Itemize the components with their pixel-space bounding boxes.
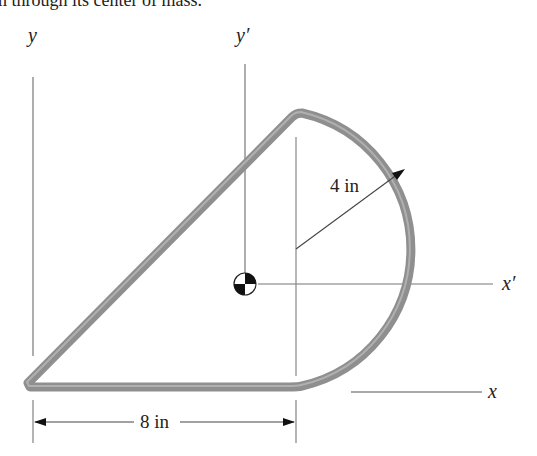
width-arrow-left-icon <box>34 418 46 426</box>
width-label: 8 in <box>140 411 170 432</box>
center-of-mass-icon <box>234 273 256 295</box>
radius-label: 4 in <box>330 175 360 196</box>
thin-rod-figure: y y′ x′ x 4 in 8 in <box>0 0 537 456</box>
y-prime-axis-label: y′ <box>234 24 250 47</box>
width-arrow-right-icon <box>283 418 295 426</box>
x-axis-label: x <box>487 380 497 402</box>
x-prime-axis-label: x′ <box>501 272 516 294</box>
rod-shape <box>28 113 411 387</box>
y-axis-label: y <box>26 24 37 47</box>
